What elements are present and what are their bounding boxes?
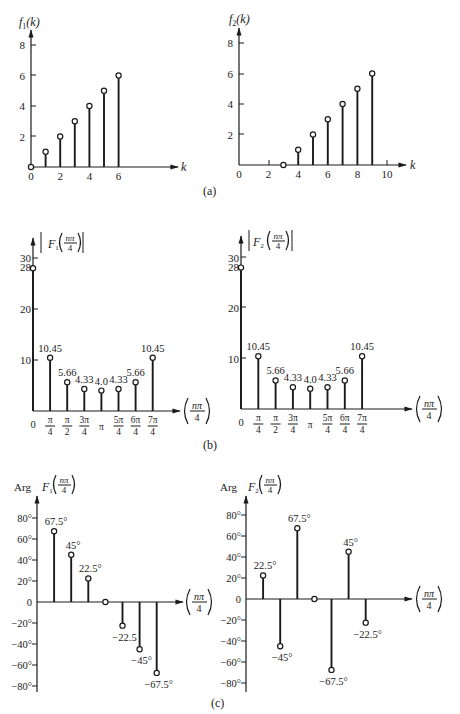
y-tick-labels: 2468 [228, 37, 234, 141]
svg-text:π: π [256, 413, 261, 423]
stem-point [154, 602, 159, 675]
stem-point [99, 388, 104, 411]
data-label: 10.45 [246, 341, 270, 352]
svg-text:5π: 5π [114, 415, 124, 425]
stem-point [238, 265, 243, 409]
y-axis-label: F1 nπ 4 [41, 232, 83, 253]
chart-F2-phase: 80°60°40°20°0−20°−40°−60°−80° 22.5°−45°6… [220, 475, 442, 692]
svg-text:−40°: −40° [11, 639, 32, 650]
stem-point [355, 86, 360, 165]
x-axis-label: k [181, 160, 187, 174]
figure: 2468 0246 f1(k) k 2468 0246810 f2(k) k (… [0, 0, 460, 714]
svg-text:4: 4 [295, 168, 301, 180]
svg-text:nπ: nπ [424, 588, 435, 599]
svg-text:28: 28 [20, 261, 32, 273]
stem-point [370, 71, 375, 165]
x-tick-labels: 0246810 [236, 168, 393, 180]
stem-point [65, 380, 70, 411]
data-label: 4.33 [109, 374, 127, 385]
svg-text:4: 4 [197, 603, 202, 614]
svg-text:6: 6 [325, 168, 331, 180]
svg-text:nπ: nπ [194, 591, 205, 602]
svg-text:8: 8 [355, 168, 361, 180]
data-label: 45° [343, 537, 358, 548]
svg-text:4: 4 [20, 100, 26, 112]
svg-text:4: 4 [195, 412, 200, 423]
stem-point [137, 602, 142, 652]
data-label: −67.5° [319, 676, 348, 687]
fraction-npi-over-4: nπ 4 [60, 233, 81, 253]
svg-text:3π: 3π [80, 415, 90, 425]
stem-point [312, 596, 317, 601]
stem-point [43, 149, 48, 167]
svg-text:4: 4 [48, 427, 53, 437]
y-axis-label: Arg F2 nπ 4 [220, 475, 281, 495]
svg-text:4: 4 [268, 485, 273, 495]
x-tick-labels: 0π4π23π4π5π46π47π4 [30, 415, 157, 437]
svg-text:8: 8 [228, 37, 234, 49]
svg-text:0: 0 [28, 170, 34, 182]
svg-text:7π: 7π [148, 415, 158, 425]
x-axis-label: nπ 4 [187, 589, 212, 615]
svg-text:π: π [99, 422, 104, 432]
x-axis-label: nπ 4 [417, 586, 442, 612]
data-label: 67.5° [288, 513, 311, 524]
svg-text:7π: 7π [357, 413, 367, 423]
y-tick-labels: 80°60°40°20°0−20°−40°−60°−80° [220, 510, 241, 689]
stem-point [256, 354, 261, 409]
data-label: 67.5° [45, 516, 68, 527]
data-label: −22.5° [353, 629, 382, 640]
stem-point [103, 599, 108, 604]
svg-text:80°: 80° [226, 510, 241, 521]
svg-text:8: 8 [20, 39, 26, 51]
svg-text:20: 20 [20, 303, 32, 315]
svg-text:F2: F2 [252, 235, 264, 250]
svg-text:0: 0 [27, 597, 32, 608]
svg-text:π: π [273, 413, 278, 423]
stem-point [58, 134, 63, 167]
data-label: 22.5° [254, 560, 277, 571]
data-label: 10.45 [141, 343, 165, 354]
data-label: 10.45 [38, 343, 62, 354]
svg-text:π: π [48, 415, 53, 425]
fraction-npi-over-4: nπ 4 [260, 475, 281, 495]
svg-text:nπ: nπ [59, 475, 69, 485]
stem-point [360, 354, 365, 409]
panel-label-c: (c) [211, 696, 224, 710]
stem-point [101, 88, 106, 167]
stem-point [342, 378, 347, 409]
y-tick-labels: 10203028 [228, 252, 240, 365]
svg-text:10: 10 [382, 168, 394, 180]
svg-text:40°: 40° [17, 555, 32, 566]
data-label: −45° [272, 652, 293, 663]
y-axis-label: f1(k) [19, 15, 40, 31]
svg-text:2: 2 [266, 168, 272, 180]
svg-text:2: 2 [57, 170, 63, 182]
stem-point [346, 549, 351, 599]
svg-text:20°: 20° [226, 573, 241, 584]
svg-text:−20°: −20° [220, 615, 241, 626]
svg-text:4: 4 [427, 600, 432, 611]
svg-text:4: 4 [256, 425, 261, 435]
svg-text:4: 4 [325, 425, 330, 435]
stem-point [82, 386, 87, 411]
svg-text:4: 4 [228, 98, 234, 110]
svg-text:π: π [308, 420, 313, 430]
stem-point [69, 552, 74, 602]
svg-text:6: 6 [228, 68, 234, 80]
stems: 22.5°−45°67.5°−67.5°45°−22.5° [254, 513, 382, 687]
svg-text:4: 4 [62, 485, 67, 495]
stem-point [116, 73, 121, 167]
y-tick-labels: 2468 [20, 39, 26, 143]
svg-text:−80°: −80° [220, 678, 241, 689]
stem-point [281, 162, 286, 167]
svg-text:2: 2 [65, 427, 70, 437]
stem-point [120, 602, 125, 628]
svg-text:nπ: nπ [192, 400, 203, 411]
stem-point [308, 386, 313, 409]
svg-text:4: 4 [87, 170, 93, 182]
svg-text:10: 10 [228, 353, 240, 365]
svg-text:4: 4 [276, 241, 281, 251]
svg-text:20: 20 [228, 302, 240, 314]
svg-text:60°: 60° [17, 534, 32, 545]
